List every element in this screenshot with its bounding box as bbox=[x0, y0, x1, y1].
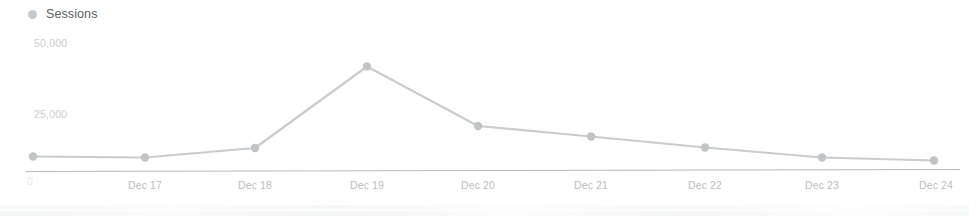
x-axis-tick-dec-23: Dec 23 bbox=[805, 180, 839, 191]
x-axis-tick-dec-22: Dec 22 bbox=[688, 180, 722, 191]
x-axis-tick-dec-18: Dec 18 bbox=[238, 180, 272, 191]
data-point-marker bbox=[141, 153, 149, 161]
content-strip-row bbox=[0, 211, 969, 216]
data-point-marker bbox=[251, 144, 259, 152]
data-point-marker bbox=[29, 152, 37, 160]
series-markers-sessions bbox=[29, 62, 938, 164]
data-point-marker bbox=[474, 122, 482, 130]
x-axis-tick-dec-24: Dec 24 bbox=[919, 180, 953, 191]
page-content-below-fold bbox=[0, 205, 969, 219]
sessions-line-chart-widget: Sessions 50,000 25,000 0 Dec 17 bbox=[0, 0, 969, 219]
x-axis-tick-dec-17: Dec 17 bbox=[128, 180, 162, 191]
data-point-marker bbox=[701, 143, 709, 151]
x-axis-tick-dec-21: Dec 21 bbox=[574, 180, 608, 191]
data-point-marker bbox=[818, 153, 826, 161]
y-axis-tick-50000: 50,000 bbox=[34, 38, 67, 49]
x-axis-tick-dec-19: Dec 19 bbox=[350, 180, 384, 191]
data-point-marker bbox=[930, 156, 938, 164]
data-point-marker bbox=[587, 132, 595, 140]
x-axis-tick-dec-20: Dec 20 bbox=[461, 180, 495, 191]
series-line-sessions bbox=[33, 67, 934, 161]
content-strip-row bbox=[0, 205, 969, 210]
y-axis-tick-0: 0 bbox=[27, 176, 33, 187]
x-axis-line bbox=[26, 170, 960, 172]
y-axis-tick-25000: 25,000 bbox=[34, 109, 67, 120]
data-point-marker bbox=[363, 62, 371, 70]
